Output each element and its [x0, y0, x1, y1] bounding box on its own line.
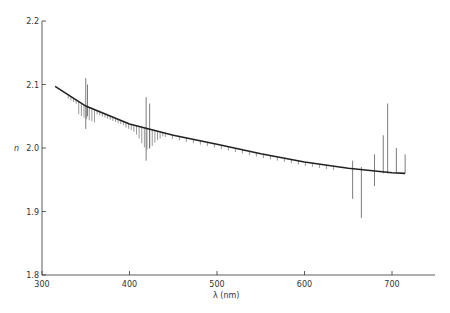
dispersion-curve [55, 86, 405, 173]
refractive-index-chart: 300400500600700 1.81.92.02.12.2 n λ (nm) [0, 0, 450, 313]
x-tick-label: 500 [209, 280, 224, 289]
x-axis-label: λ (nm) [213, 291, 239, 300]
axes [42, 21, 435, 275]
y-tick-label: 1.9 [26, 208, 39, 217]
small-residual-bars [68, 95, 333, 170]
y-axis-label: n [14, 144, 19, 153]
x-tick-label: 400 [122, 280, 137, 289]
x-tick-label: 300 [34, 280, 49, 289]
x-tick-label: 700 [384, 280, 399, 289]
y-tick-label: 2.1 [26, 81, 39, 90]
x-ticks: 300400500600700 [34, 271, 399, 289]
error-bars [86, 78, 405, 218]
y-tick-label: 1.8 [26, 271, 39, 280]
x-tick-label: 600 [297, 280, 312, 289]
y-ticks: 1.81.92.02.12.2 [26, 17, 46, 280]
y-tick-label: 2.0 [26, 144, 39, 153]
y-tick-label: 2.2 [26, 17, 39, 26]
